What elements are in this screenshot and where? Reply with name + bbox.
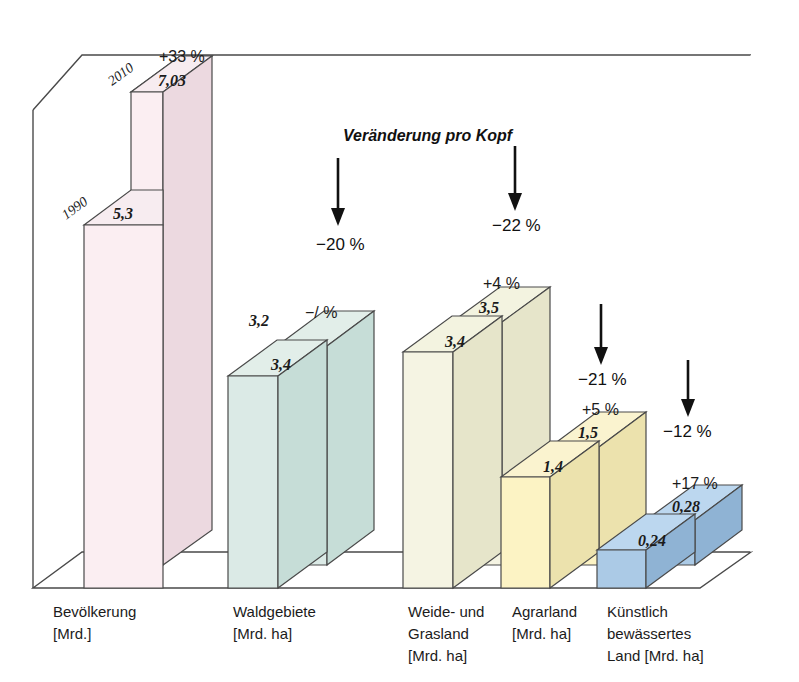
annotation-title: Veränderung pro Kopf <box>343 127 514 144</box>
change-label: +5 % <box>582 401 619 418</box>
bar-waldgebiete-1990[interactable] <box>228 340 327 588</box>
value-label-2010: 3,2 <box>248 312 269 329</box>
category-label-waldgebiete: Waldgebiete [Mrd. ha] <box>233 603 316 642</box>
cat-line-1: Agrarland <box>512 603 577 620</box>
change-label: +17 % <box>672 475 718 492</box>
bar-front-face <box>228 376 278 588</box>
arrow-pct-label: −20 % <box>316 235 365 254</box>
bar-chart-3d: 1990 2010 5,3 7,03 +33 % 3,2 3,4 −/ % <box>0 0 799 682</box>
chart-canvas: 1990 2010 5,3 7,03 +33 % 3,2 3,4 −/ % <box>0 0 799 682</box>
value-label-1990: 3,4 <box>270 356 291 373</box>
bar-side-face <box>453 316 502 588</box>
bar-group-bevoelkerung[interactable]: 1990 2010 5,3 7,03 +33 % <box>59 48 212 588</box>
cat-line-3: Land [Mrd. ha] <box>607 647 704 664</box>
value-label-1990: 5,3 <box>113 205 133 222</box>
bar-front-face <box>84 225 163 588</box>
category-label-weide-grasland: Weide- und Grasland [Mrd. ha] <box>408 603 484 664</box>
category-label-agrarland: Agrarland [Mrd. ha] <box>512 603 577 642</box>
value-label-2010: 7,03 <box>158 72 186 89</box>
bar-grasland-1990[interactable] <box>403 316 502 588</box>
cat-line-2: [Mrd. ha] <box>233 625 292 642</box>
bar-front-face <box>597 550 646 588</box>
bar-side-face <box>327 311 374 565</box>
bar-side-face <box>278 340 327 588</box>
cat-line-1: Waldgebiete <box>233 603 316 620</box>
cat-line-1: Bevölkerung <box>53 603 136 620</box>
change-label: +4 % <box>483 275 520 292</box>
bar-bevoelkerung-1990[interactable] <box>84 190 163 588</box>
value-label-1990: 3,4 <box>444 333 465 350</box>
change-label: +33 % <box>159 48 205 65</box>
value-label-2010: 3,5 <box>478 299 499 316</box>
arrow-pct-label: −21 % <box>578 370 627 389</box>
cat-line-2: [Mrd.] <box>53 625 91 642</box>
bar-front-face <box>403 352 453 588</box>
cat-line-2: [Mrd. ha] <box>512 625 571 642</box>
arrow-pct-label: −22 % <box>492 216 541 235</box>
change-label: −/ % <box>305 304 337 321</box>
cat-line-3: [Mrd. ha] <box>408 647 467 664</box>
bar-side-face <box>163 56 212 565</box>
bar-front-face <box>501 477 550 588</box>
cat-line-1: Künstlich <box>607 603 668 620</box>
category-axis-labels: Bevölkerung [Mrd.] Waldgebiete [Mrd. ha]… <box>53 603 704 664</box>
cat-line-1: Weide- und <box>408 603 484 620</box>
cat-line-2: Grasland <box>408 625 469 642</box>
category-label-bewaessertes-land: Künstlich bewässertes Land [Mrd. ha] <box>607 603 704 664</box>
value-label-2010: 0,28 <box>672 498 700 515</box>
value-label-2010: 1,5 <box>578 424 598 441</box>
value-label-1990: 0,24 <box>638 532 666 549</box>
arrow-pct-label: −12 % <box>663 422 712 441</box>
category-label-bevoelkerung: Bevölkerung [Mrd.] <box>53 603 136 642</box>
value-label-1990: 1,4 <box>543 458 563 475</box>
cat-line-2: bewässertes <box>607 625 691 642</box>
